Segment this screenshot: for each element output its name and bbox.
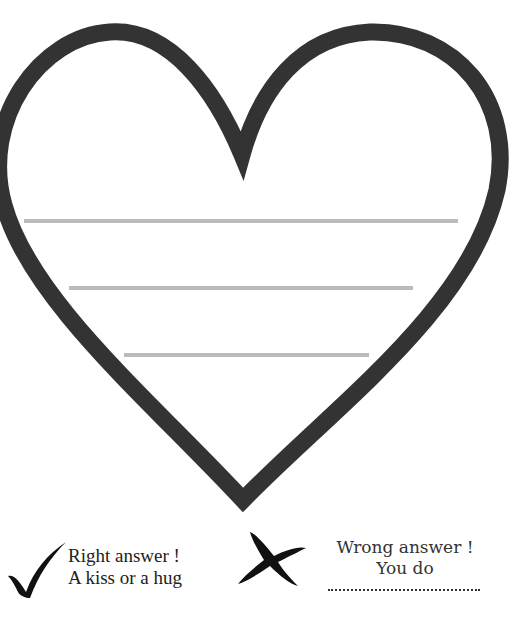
cross-icon xyxy=(236,530,308,588)
blank-fill-line xyxy=(328,589,480,591)
heart-outline xyxy=(0,0,520,520)
wrong-answer-text: Wrong answer ! You do xyxy=(320,537,490,579)
right-answer-line1: Right answer ! xyxy=(68,545,182,567)
heart-shape xyxy=(0,32,500,500)
wrong-answer-line1: Wrong answer ! xyxy=(320,537,490,558)
right-answer-line2: A kiss or a hug xyxy=(68,567,182,589)
right-answer-text: Right answer ! A kiss or a hug xyxy=(68,545,182,589)
checkmark-icon xyxy=(6,540,66,600)
wrong-answer-line2: You do xyxy=(320,558,490,579)
